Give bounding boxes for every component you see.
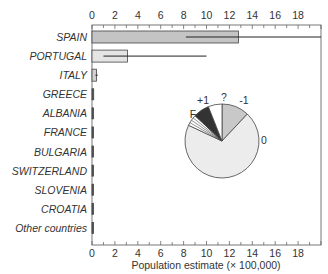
x-tick-label: 18 [292,247,304,259]
category-label: FRANCE [44,126,88,138]
category-label: GREECE [43,88,88,100]
category-label: SLOVENIA [34,184,87,196]
x-tick-label: 4 [135,9,141,21]
x-tick-label: 16 [269,247,281,259]
bar [92,146,94,157]
pie-label: 0 [261,134,267,146]
bar [92,203,94,214]
x-tick-label: 18 [292,9,304,21]
plot-area: 024681012141618 024681012141618 SPAINPOR… [12,9,321,271]
category-label: Other countries [15,222,88,234]
bar [92,165,94,176]
x-tick-label: 10 [201,247,213,259]
x-tick-label: 2 [112,9,118,21]
x-tick-label: 14 [246,247,258,259]
bar [92,184,94,195]
category-label: ALBANIA [42,107,87,119]
x-tick-label: 12 [224,247,236,259]
x-tick-label: 16 [269,9,281,21]
inset-pie-chart: -10F+1? [185,91,267,178]
x-tick-label: 0 [89,9,95,21]
bar [92,222,94,233]
category-labels: SPAINPORTUGALITALYGREECEALBANIAFRANCEBUL… [12,31,88,234]
category-label: SWITZERLAND [12,165,88,177]
x-axis-label: Population estimate (× 100,000) [131,259,280,271]
x-tick-label: 14 [246,9,258,21]
x-tick-label: 6 [158,247,164,259]
chart-canvas: 024681012141618 024681012141618 SPAINPOR… [0,0,328,274]
pie-label: -1 [239,94,248,106]
x-tick-label: 2 [112,247,118,259]
pie-label: ? [221,91,227,103]
category-label: BULGARIA [34,146,87,158]
bottom-axis: 024681012141618 [89,241,321,259]
category-label: PORTUGAL [29,50,87,62]
category-label: ITALY [60,69,88,81]
category-label: SPAIN [56,31,87,43]
top-axis: 024681012141618 [89,9,321,29]
category-label: CROATIA [41,203,87,215]
x-tick-label: 10 [201,9,213,21]
x-tick-label: 12 [224,9,236,21]
pie-label: F [190,108,196,120]
x-tick-label: 4 [135,247,141,259]
x-tick-label: 8 [181,9,187,21]
bar [92,89,94,100]
pie-label: +1 [197,94,209,106]
bar [92,108,94,119]
bar [92,127,94,138]
x-tick-label: 0 [89,247,95,259]
x-tick-label: 6 [158,9,164,21]
x-tick-label: 8 [181,247,187,259]
